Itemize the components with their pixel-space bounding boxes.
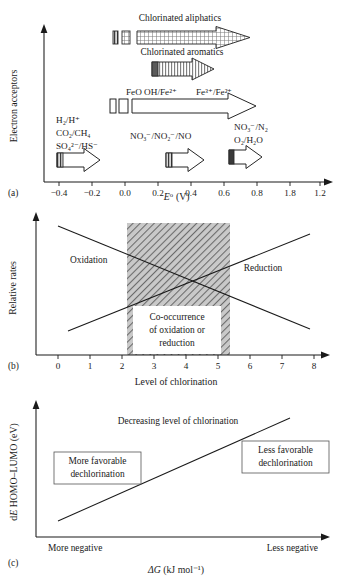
panel-c-box-right-line1: Less favorable [258, 445, 313, 455]
panel-a-tick-2: 0.0 [119, 188, 131, 198]
panel-a-ticks [59, 182, 320, 186]
panel-c-box-left-line1: More favorable [68, 456, 126, 466]
panel-b-tick-3: 3 [152, 361, 157, 371]
panel-a-arrow-right [229, 146, 262, 169]
panel-b-tick-1: 1 [88, 361, 93, 371]
panel-a-label-iron-oxide: FeO OH/Fe²⁺ [126, 87, 177, 97]
panel-a-arrow-middle [166, 149, 204, 172]
panel-a-y-axis [41, 24, 48, 182]
panel-b-annot-oxidation: Oxidation [70, 255, 108, 265]
panel-a-title-aromatics: Chlorinated aromatics [140, 47, 223, 57]
panel-a-plot: −0.4 −0.2 0.0 0.2 0.4 0.6 0.8 1.8 1.2 El… [0, 0, 345, 200]
panel-a-label-sulfate: SO₄²⁻/HS⁻ [56, 141, 98, 151]
panel-a-marker-iron-1 [110, 99, 116, 113]
panel-b-cooccurrence-line1: Co-occurrence [149, 312, 204, 322]
panel-b-tick-7: 7 [280, 361, 285, 371]
panel-b-cooccurrence-line2: of oxidation or [149, 325, 206, 335]
panel-a-arrow-left [57, 149, 100, 172]
panel-a-tick-7: 1.8 [284, 188, 296, 198]
panel-b-tick-5: 5 [216, 361, 221, 371]
panel-c-xlabel-sym: ΔG [147, 564, 161, 575]
panel-b-annot-reduction: Reduction [244, 263, 283, 273]
panel-b-cooccurrence-label: Co-occurrence of oxidation or reduction [133, 306, 221, 354]
panel-a-label-nitrate-no: NO₃⁻/NO₂⁻/NO [130, 131, 192, 141]
panel-a-tick-3: 0.2 [152, 188, 164, 198]
panel-a-marker-iron-2 [119, 99, 128, 113]
panel-a: −0.4 −0.2 0.0 0.2 0.4 0.6 0.8 1.8 1.2 El… [0, 0, 345, 200]
figure-root: −0.4 −0.2 0.0 0.2 0.4 0.6 0.8 1.8 1.2 El… [0, 0, 345, 581]
panel-a-tick-0: −0.4 [51, 188, 68, 198]
panel-a-arrow-aliphatics [137, 27, 250, 49]
panel-c: Decreasing level of chlorination More fa… [0, 392, 345, 581]
panel-c-box-left-line2: dechlorination [70, 469, 124, 479]
panel-c-x-axis [36, 534, 330, 541]
panel-b-tick-2: 2 [120, 361, 125, 371]
panel-a-tick-1: −0.2 [84, 188, 101, 198]
panel-b: Oxidation Reduction Co-occurrence of oxi… [0, 200, 345, 392]
panel-a-y-axis-label: Electron acceptors [8, 70, 19, 143]
panel-b-tick-8: 8 [312, 361, 317, 371]
panel-c-ylabel-sym: E [8, 510, 19, 517]
panel-a-letter: (a) [8, 188, 18, 199]
panel-c-plot: Decreasing level of chlorination More fa… [0, 392, 345, 581]
panel-c-xtick-left: More negative [48, 543, 102, 553]
panel-a-title-aliphatics: Chlorinated aliphatics [139, 13, 222, 23]
panel-a-marker-aliphatics-1 [113, 31, 118, 44]
panel-a-tick-6: 0.8 [251, 188, 263, 198]
panel-c-box-more-favorable: More favorable dechlorination [54, 452, 141, 484]
panel-b-cooccurrence-line3: reduction [159, 338, 195, 348]
panel-a-marker-aliphatics-2 [122, 31, 130, 44]
panel-c-annot-trend: Decreasing level of chlorination [118, 416, 239, 426]
panel-a-label-carbon: CO₂/CH₄ [56, 128, 91, 138]
panel-c-xtick-right: Less negative [267, 543, 318, 553]
panel-c-letter: (c) [8, 558, 18, 569]
panel-a-xlabel-sup: o [170, 191, 174, 198]
panel-a-arrow-aromatics [152, 58, 214, 80]
panel-a-tick-5: 0.6 [218, 188, 230, 198]
panel-b-ticks [58, 355, 314, 359]
panel-b-x-axis-label: Level of chlorination [135, 376, 218, 387]
panel-b-plot: Oxidation Reduction Co-occurrence of oxi… [0, 200, 345, 392]
panel-b-y-axis [33, 212, 40, 355]
panel-c-x-axis-label: ΔG (kJ mol⁻¹) [147, 564, 204, 576]
panel-a-label-oxygen: O₂/H₂O [234, 135, 263, 145]
panel-a-label-nitrate-n2: NO₃⁻/N₂ [234, 122, 268, 132]
panel-a-label-iron: Fe³⁺/Fe²⁺ [196, 87, 232, 97]
panel-c-box-right-line2: dechlorination [258, 458, 312, 468]
panel-a-label-hydrogen: H₂/H⁺ [56, 115, 80, 125]
panel-b-tick-6: 6 [248, 361, 253, 371]
panel-b-y-axis-label: Relative rates [7, 261, 18, 315]
panel-b-tick-4: 4 [184, 361, 189, 371]
panel-b-tick-0: 0 [56, 361, 61, 371]
panel-c-y-axis-label: dE HOMO–LUMO (eV) [8, 423, 20, 520]
panel-c-xlabel-unit: (kJ mol⁻¹) [163, 564, 204, 576]
panel-b-letter: (b) [8, 361, 19, 372]
panel-b-tick-labels: 0 1 2 3 4 5 6 7 8 [56, 361, 317, 371]
panel-c-y-axis [33, 400, 40, 537]
panel-a-tick-8: 1.2 [314, 188, 326, 198]
panel-c-box-less-favorable: Less favorable dechlorination [242, 441, 329, 473]
panel-c-ylabel-post: HOMO–LUMO (eV) [8, 423, 20, 510]
